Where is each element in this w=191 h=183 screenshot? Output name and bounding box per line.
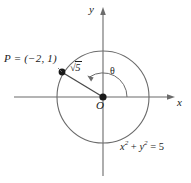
circle-equation-label: x2 + y2 = 5 bbox=[120, 140, 164, 152]
x-axis-arrowhead bbox=[167, 94, 175, 100]
radius-segment bbox=[63, 73, 104, 98]
angle-arc bbox=[90, 73, 127, 97]
radicand-value: 5 bbox=[75, 61, 81, 73]
y-axis-label: y bbox=[89, 4, 94, 15]
trigonometry-circle-figure: P = (−2, 1) √5 θ O y x x2 + y2 = 5 bbox=[0, 0, 191, 183]
equation-plus-sign: + bbox=[128, 141, 139, 152]
radius-length-label: √5 bbox=[70, 63, 82, 74]
origin-label: O bbox=[96, 100, 104, 111]
y-axis-arrowhead bbox=[100, 7, 106, 15]
point-p-label: P = (−2, 1) bbox=[4, 53, 57, 64]
x-axis-label: x bbox=[177, 97, 182, 108]
equation-equals-sign: = bbox=[148, 141, 159, 152]
angle-theta-label: θ bbox=[110, 66, 115, 76]
figure-canvas bbox=[0, 0, 191, 183]
equation-value: 5 bbox=[159, 141, 164, 152]
